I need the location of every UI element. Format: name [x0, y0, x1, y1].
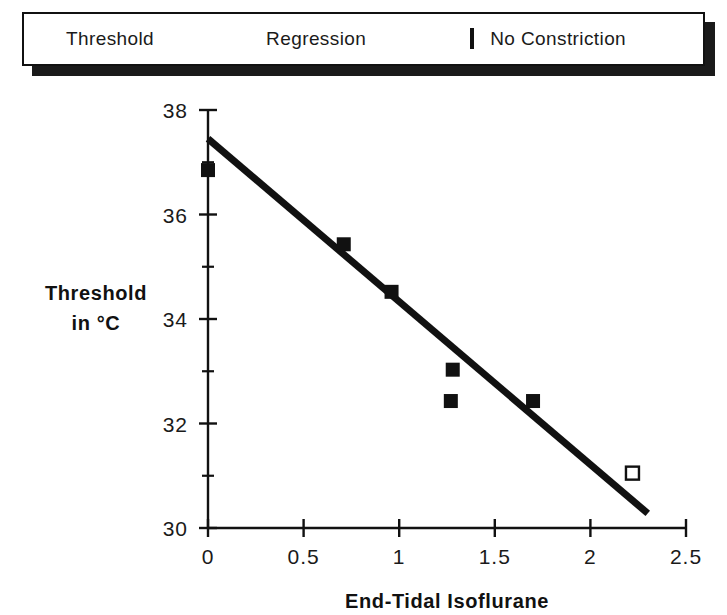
legend-label-no-constriction: No Constriction	[490, 28, 626, 50]
threshold-data-point	[444, 394, 458, 408]
y-tick-label: 30	[163, 517, 188, 540]
threshold-data-point	[446, 363, 460, 377]
y-axis-title-line-2: in °C	[72, 312, 121, 334]
y-tick-label: 32	[163, 413, 188, 436]
y-tick-labels: 3032343638	[163, 99, 188, 540]
threshold-data-point	[201, 163, 215, 177]
x-tick-label: 2	[584, 545, 597, 568]
legend-label-regression: Regression	[266, 28, 366, 50]
x-tick-labels: 00.511.522.5	[202, 545, 702, 568]
regression-line-path	[208, 139, 648, 514]
threshold-data-point	[337, 237, 351, 251]
no-constriction-data-point	[626, 467, 639, 480]
x-axis-title: End-Tidal Isoflurane	[345, 590, 549, 612]
x-tick-label: 0.5	[287, 545, 319, 568]
plot-canvas: 3032343638 00.511.522.5 End-Tidal Isoflu…	[0, 78, 727, 615]
x-tick-label: 2.5	[670, 545, 702, 568]
legend-item-regression: Regression	[250, 28, 366, 50]
axis-lines	[208, 110, 686, 528]
threshold-data-point	[526, 394, 540, 408]
y-tick-label: 38	[163, 99, 188, 122]
scatter-plot: 3032343638 00.511.522.5 End-Tidal Isoflu…	[0, 78, 727, 615]
open-square-marker-icon	[470, 30, 474, 48]
y-tick-label: 36	[163, 204, 188, 227]
x-tick-label: 1	[393, 545, 406, 568]
legend-box: Threshold Regression No Constriction	[22, 12, 705, 66]
threshold-data-point	[385, 285, 399, 299]
legend-label-threshold: Threshold	[66, 28, 154, 50]
y-tick-label: 34	[163, 308, 188, 331]
regression-line	[208, 139, 648, 514]
legend-item-no-constriction: No Constriction	[470, 28, 626, 50]
x-tick-label: 0	[202, 545, 215, 568]
chart-legend: Threshold Regression No Constriction	[22, 12, 705, 66]
legend-item-threshold: Threshold	[50, 28, 154, 50]
y-axis-title-line-1: Threshold	[45, 282, 147, 304]
x-tick-label: 1.5	[479, 545, 511, 568]
